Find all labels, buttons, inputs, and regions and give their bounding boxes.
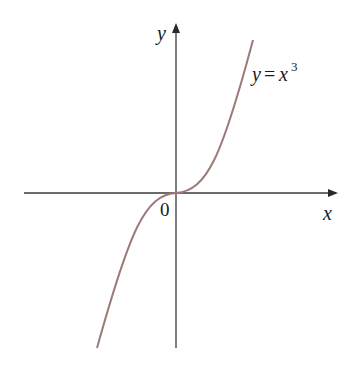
svg-text:y: y [250,63,261,86]
origin-label: 0 [160,199,170,220]
cubic-function-diagram: y x 0 y = x 3 [0,0,356,370]
curve-equation-label: y = x 3 [250,59,298,86]
svg-text:3: 3 [291,59,298,74]
svg-text:=: = [264,63,275,85]
svg-text:x: x [278,63,288,85]
y-axis-label: y [155,22,166,45]
x-axis-label: x [322,202,332,224]
cubic-curve [97,40,253,348]
